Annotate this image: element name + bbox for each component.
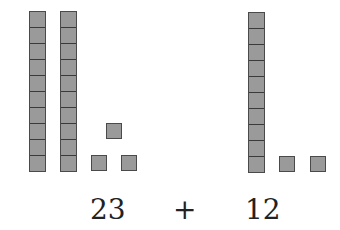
plus-operator: +	[173, 196, 196, 224]
right-addend-label: 12	[245, 196, 281, 224]
tens-rod	[29, 11, 46, 172]
ones-cube	[121, 155, 137, 171]
ones-cube	[106, 123, 122, 139]
tens-rod	[60, 11, 77, 172]
left-addend-label: 23	[90, 196, 126, 224]
ones-cube	[279, 156, 295, 172]
tens-rod	[248, 12, 265, 173]
ones-cube	[310, 156, 326, 172]
ones-cube	[91, 155, 107, 171]
